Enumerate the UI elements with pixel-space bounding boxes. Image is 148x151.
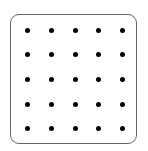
grid-dot	[120, 126, 125, 131]
grid-dot	[49, 28, 54, 33]
grid-dot	[49, 52, 54, 57]
grid-dot	[73, 126, 78, 131]
grid-dot	[49, 77, 54, 82]
grid-dot	[49, 126, 54, 131]
grid-dot	[25, 28, 30, 33]
grid-dot	[73, 77, 78, 82]
grid-dot	[96, 28, 101, 33]
grid-dot	[96, 102, 101, 107]
grid-dot	[96, 77, 101, 82]
grid-dot	[120, 77, 125, 82]
grid-dot	[120, 102, 125, 107]
grid-dot	[120, 52, 125, 57]
grid-dot	[73, 52, 78, 57]
grid-dot	[25, 52, 30, 57]
grid-dot	[49, 102, 54, 107]
grid-dot	[96, 52, 101, 57]
grid-dot	[120, 28, 125, 33]
grid-dot	[96, 126, 101, 131]
grid-dot	[25, 102, 30, 107]
grid-dot	[73, 28, 78, 33]
grid-dot	[25, 77, 30, 82]
grid-dot	[25, 126, 30, 131]
grid-dot	[73, 102, 78, 107]
